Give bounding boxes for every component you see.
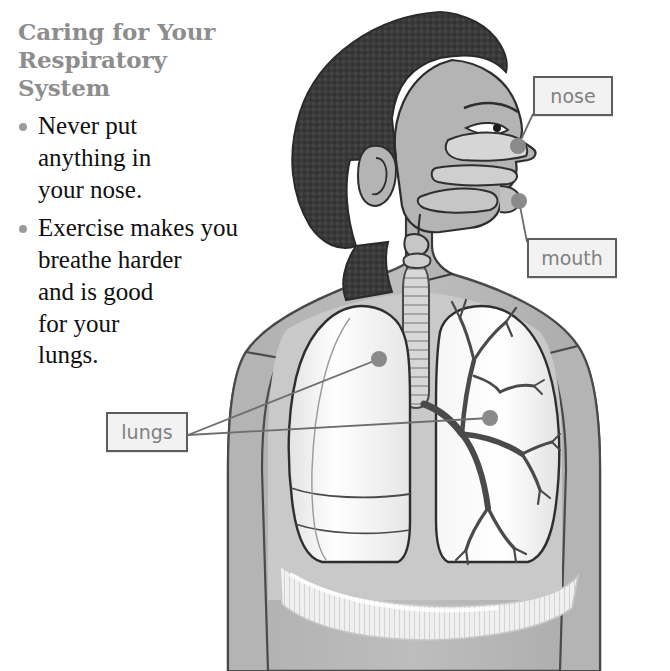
pupil [493,124,501,132]
marker-dot-right-lung [482,410,498,426]
text-panel: Caring for Your Respiratory System Never… [0,0,300,378]
callout-label-nose: nose [533,76,613,116]
care-tips-list: Never put anything in your nose. Exercis… [0,110,300,371]
ear [358,146,396,206]
palate [432,165,517,185]
marker-dot-nose [510,138,526,154]
marker-dot-left-lung [371,351,387,367]
marker-dot-mouth [511,193,527,209]
larynx [404,254,431,269]
callout-label-lungs: lungs [106,412,188,452]
page-title: Caring for Your Respiratory System [0,0,300,102]
respiratory-system-page: Caring for Your Respiratory System Never… [0,0,670,671]
hair-nape [343,242,392,300]
callout-label-mouth: mouth [527,238,617,278]
list-item: Never put anything in your nose. [0,110,300,205]
list-item: Exercise makes you breathe harder and is… [0,212,300,371]
